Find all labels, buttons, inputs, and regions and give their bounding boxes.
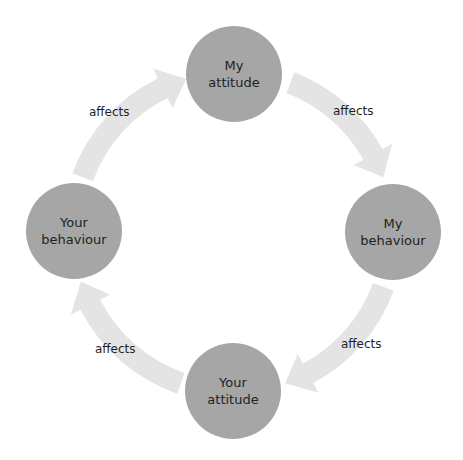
- node-your-behaviour: Your behaviour: [26, 183, 122, 279]
- node-label-line1: Your: [60, 214, 88, 231]
- node-label-line1: My: [225, 57, 244, 74]
- node-my-behaviour: My behaviour: [345, 184, 441, 280]
- node-label-line1: Your: [219, 374, 247, 391]
- arrow-your-behaviour-to-my-attitude: [72, 68, 186, 181]
- arrow-my-attitude-to-my-behaviour: [286, 72, 392, 177]
- node-label-line1: My: [384, 215, 403, 232]
- edge-label-top-right: affects: [333, 104, 374, 118]
- node-label-line2: behaviour: [360, 232, 425, 249]
- node-my-attitude: My attitude: [186, 26, 282, 122]
- edge-label-bottom-left: affects: [95, 342, 136, 356]
- node-label-line2: attitude: [208, 74, 259, 91]
- node-your-attitude: Your attitude: [185, 343, 281, 439]
- arrow-your-attitude-to-your-behaviour: [71, 281, 185, 393]
- node-label-line2: attitude: [207, 391, 258, 408]
- edge-label-top-left: affects: [89, 105, 130, 119]
- edge-label-bottom-right: affects: [341, 337, 382, 351]
- node-label-line2: behaviour: [41, 231, 106, 248]
